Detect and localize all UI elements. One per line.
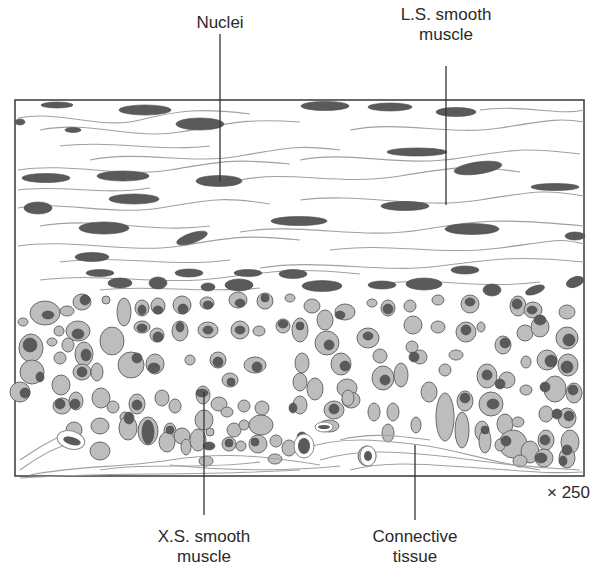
label-connective-line1: Connective (360, 527, 470, 547)
label-xs-line1: X.S. smooth (144, 527, 264, 547)
label-connective-line2: tissue (360, 547, 470, 567)
magnification-label: × 250 (520, 483, 590, 503)
magnification-text: × 250 (547, 483, 590, 502)
label-nuclei-text: Nuclei (196, 13, 243, 32)
label-ls-line1: L.S. smooth (386, 5, 506, 25)
label-ls-smooth-muscle: L.S. smooth muscle (386, 5, 506, 45)
label-xs-smooth-muscle: X.S. smooth muscle (144, 527, 264, 567)
label-nuclei: Nuclei (170, 13, 270, 33)
label-connective-tissue: Connective tissue (360, 527, 470, 567)
label-xs-line2: muscle (144, 547, 264, 567)
label-ls-line2: muscle (386, 25, 506, 45)
smooth-muscle-diagram (0, 0, 598, 587)
